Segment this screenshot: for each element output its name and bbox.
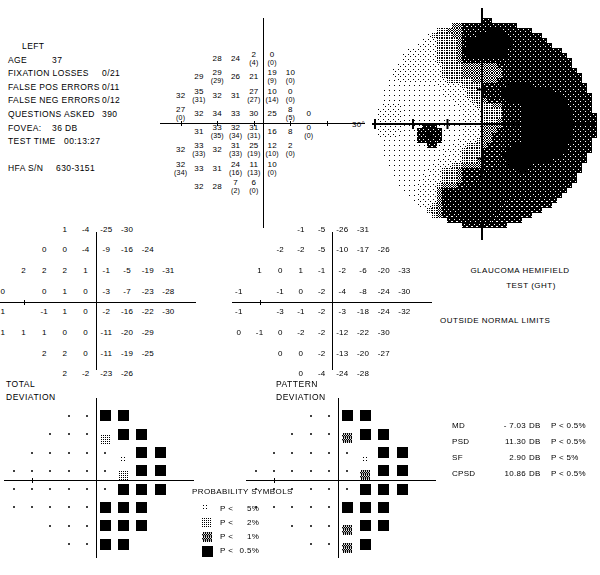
index-probability: P < 5% xyxy=(545,450,586,466)
axis-tick xyxy=(181,121,182,126)
grayscale-map xyxy=(372,8,597,240)
probability-symbol-p05 xyxy=(100,539,111,550)
ght-title: GLAUCOMA HEMIFIELD TEST (GHT) xyxy=(440,263,600,293)
test-time-row: TEST TIME 00:13:27 xyxy=(8,135,183,149)
deviation-cell: 1 xyxy=(33,329,55,337)
deviation-cell: -10 xyxy=(331,246,353,254)
deviation-cell: -11 xyxy=(95,350,117,358)
deviation-cell: -30 xyxy=(373,329,395,337)
deviation-cell: 1 xyxy=(54,308,76,316)
legend-label: P < xyxy=(220,518,233,527)
deviation-cell: 0 xyxy=(54,329,76,337)
deviation-cell: -2 xyxy=(290,329,312,337)
index-unit: DB xyxy=(529,466,545,482)
fovea-row: FOVEA: 36 DB xyxy=(8,122,183,136)
deviation-cell: -17 xyxy=(352,246,374,254)
probability-symbol-norm xyxy=(328,488,330,490)
deviation-cell: 0 xyxy=(269,267,291,275)
serial-number-label: HFA S/N xyxy=(8,162,56,176)
axis-tick xyxy=(274,478,275,483)
deviation-cell: -1 xyxy=(95,267,117,275)
probability-symbol-norm xyxy=(328,525,330,527)
probability-symbol-p05 xyxy=(342,502,353,513)
deviation-cell: 0 xyxy=(228,329,250,337)
legend-percent: 5% xyxy=(233,504,259,513)
fixation-losses-label: FIXATION LOSSES xyxy=(8,67,102,81)
global-indices: MD- 7.03DBP < 0.5%PSD11.30DBP < 0.5%SF2.… xyxy=(452,418,586,482)
deviation-cell: -7 xyxy=(116,288,138,296)
deviation-cell: -12 xyxy=(331,329,353,337)
sensitivity-value: 2 xyxy=(279,142,301,150)
probability-symbol-norm xyxy=(328,452,330,454)
probability-symbol-p05 xyxy=(136,502,147,513)
axis-tick xyxy=(32,478,33,483)
legend-item: P <2% xyxy=(192,515,293,529)
probability-symbol-norm xyxy=(31,506,33,508)
deviation-cell: -3 xyxy=(331,308,353,316)
probability-symbol-p1 xyxy=(342,539,352,549)
legend-item: P <0.5% xyxy=(192,543,293,557)
axis-tick xyxy=(290,121,291,126)
index-row: CPSD10.86DBP < 0.5% xyxy=(452,466,586,482)
deviation-cell: 1 xyxy=(75,267,97,275)
axis-tick xyxy=(327,121,328,126)
index-value: - 7.03 xyxy=(484,418,529,434)
legend-label: P < xyxy=(220,532,233,541)
probability-symbol-norm xyxy=(86,525,88,527)
vertical-axis xyxy=(96,398,97,558)
probability-symbol-norm xyxy=(255,470,257,472)
ght-result: OUTSIDE NORMAL LIMITS xyxy=(440,316,550,325)
probability-symbol-p05 xyxy=(360,410,371,421)
probability-symbol-norm xyxy=(68,452,70,454)
deviation-cell: 0 xyxy=(0,288,14,296)
probability-symbol-p05 xyxy=(397,447,408,458)
numeric-sensitivity-grid: 28242(4)0(0)2929(29)262119(9)10(0)3235(3… xyxy=(160,18,365,228)
axis-tick xyxy=(260,300,261,305)
index-row: PSD11.30DBP < 0.5% xyxy=(452,434,586,450)
deviation-cell: 0 xyxy=(269,350,291,358)
pattern-deviation-numeric-grid: -1-5-26-31-2-2-5-10-17-26101-1-2-6-20-33… xyxy=(232,232,432,370)
sensitivity-cell: 2(0) xyxy=(279,142,301,157)
legend-symbol-p2 xyxy=(202,517,216,528)
deviation-cell: -2 xyxy=(311,329,333,337)
probability-symbol-p05 xyxy=(378,520,389,531)
legend-title: PROBABILITY SYMBOLS xyxy=(192,487,293,496)
probability-symbol-norm xyxy=(49,470,51,472)
deviation-cell: -1 xyxy=(269,288,291,296)
legend-item: P <1% xyxy=(192,529,293,543)
probability-symbol-p05 xyxy=(360,539,371,550)
deviation-cell: -4 xyxy=(75,246,97,254)
deviation-cell: -24 xyxy=(373,288,395,296)
deviation-cell: 0 xyxy=(33,246,55,254)
deviation-cell: -27 xyxy=(373,350,395,358)
probability-symbol-p05 xyxy=(100,410,111,421)
test-time-value: 00:13:27 xyxy=(64,135,100,149)
probability-symbol-norm xyxy=(68,470,70,472)
probability-symbol-p05 xyxy=(136,520,147,531)
deviation-cell: 1 xyxy=(290,267,312,275)
probability-symbol-norm xyxy=(273,470,275,472)
deviation-cell: -30 xyxy=(116,226,138,234)
false-neg-value: 0/12 xyxy=(102,94,120,108)
sensitivity-retest-value: (0) xyxy=(279,150,301,157)
probability-symbol-norm xyxy=(104,488,106,490)
deviation-cell: -2 xyxy=(95,308,117,316)
sensitivity-cell: 10(0) xyxy=(279,69,301,84)
serial-number-value: 630-3151 xyxy=(56,162,95,176)
deviation-cell: -5 xyxy=(311,246,333,254)
probability-symbol-norm xyxy=(68,433,70,435)
false-neg-label: FALSE NEG ERRORS xyxy=(8,94,102,108)
probability-symbol-p05 xyxy=(360,429,371,440)
deviation-cell: 2 xyxy=(54,350,76,358)
deviation-cell: -33 xyxy=(393,267,415,275)
probability-symbol-norm xyxy=(310,470,312,472)
deviation-cell: -16 xyxy=(116,308,138,316)
age-label: AGE xyxy=(8,54,52,68)
sensitivity-value: 10 xyxy=(261,161,283,169)
index-name: MD xyxy=(452,418,484,434)
pattern-deviation-caption-line1: PATTERN xyxy=(276,378,326,391)
ght-line2: TEST (GHT) xyxy=(440,278,600,293)
probability-symbol-p05 xyxy=(136,429,147,440)
deviation-cell: -1 xyxy=(228,288,250,296)
index-value: 2.90 xyxy=(484,450,529,466)
